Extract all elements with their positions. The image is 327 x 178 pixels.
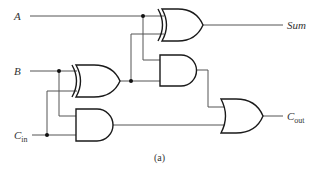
xor-gate-top: [158, 9, 203, 41]
label-cin: Cin: [14, 129, 28, 144]
or-gate: [221, 99, 263, 133]
wire-to-xor-top: [131, 34, 164, 81]
label-b: B: [14, 65, 21, 77]
label-sum: Sum: [287, 19, 306, 31]
junction-a: [141, 14, 145, 18]
junction-b: [57, 69, 61, 73]
junction-xor-out: [129, 79, 133, 83]
figure-caption: (a): [154, 152, 165, 164]
label-cout: Cout: [287, 110, 305, 125]
label-a: A: [13, 10, 21, 22]
wire-cin-to-xor-bottom: [47, 91, 77, 135]
junction-cin: [45, 133, 49, 137]
xor-gate-bottom: [72, 65, 120, 97]
and-gate-bottom: [76, 109, 113, 141]
wire-a-to-and-top: [143, 16, 160, 60]
full-adder-diagram: A B Cin Sum Cout (a): [0, 0, 327, 178]
and-gate-top: [160, 55, 196, 86]
